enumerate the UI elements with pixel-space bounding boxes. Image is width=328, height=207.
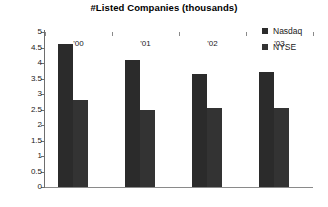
x-tick-mark — [179, 32, 180, 36]
y-tick-label: 5 — [38, 26, 42, 37]
x-tick-label: '00 — [45, 39, 112, 48]
y-tick-label: 2.5 — [31, 104, 42, 115]
bar-chart: #Listed Companies (thousands) 54.543.532… — [0, 0, 328, 207]
x-axis-line — [44, 187, 313, 188]
chart-legend: NasdaqNYSE — [262, 24, 302, 56]
legend-label: NYSE — [273, 42, 296, 52]
bar — [58, 44, 73, 187]
bar — [73, 100, 88, 187]
bar — [192, 74, 207, 187]
x-tick-mark — [246, 32, 247, 36]
y-tick-label: 3 — [38, 88, 42, 99]
bar — [140, 110, 155, 188]
legend-label: Nasdaq — [273, 26, 302, 36]
y-tick-label: 1 — [38, 150, 42, 161]
y-tick-label: 4.5 — [31, 42, 42, 53]
x-tick-mark — [112, 32, 113, 36]
legend-swatch-icon — [262, 28, 268, 34]
y-tick-label: 0.5 — [31, 166, 42, 177]
legend-swatch-icon — [262, 44, 268, 50]
x-tick-mark — [45, 32, 46, 36]
legend-item[interactable]: Nasdaq — [262, 24, 302, 37]
bar — [274, 108, 289, 187]
x-tick-label: '02 — [179, 39, 246, 48]
x-tick-label: '01 — [112, 39, 179, 48]
y-tick-label: 0 — [38, 181, 42, 192]
y-tick-label: 2 — [38, 119, 42, 130]
y-tick-label: 3.5 — [31, 73, 42, 84]
bar — [259, 72, 274, 187]
x-tick-mark — [313, 32, 314, 36]
y-tick-label: 4 — [38, 57, 42, 68]
bar — [125, 60, 140, 187]
legend-item[interactable]: NYSE — [262, 40, 302, 53]
y-tick-label: 1.5 — [31, 135, 42, 146]
chart-title: #Listed Companies (thousands) — [0, 2, 328, 13]
bar — [207, 108, 222, 187]
